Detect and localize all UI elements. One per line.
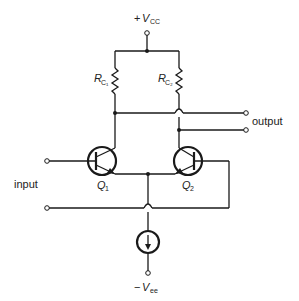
vcc-label: + V CC [134,12,160,25]
input-label: input [14,178,38,190]
q2-subscript: 2 [190,185,194,192]
output-terminal-2[interactable] [244,128,249,133]
vcc-sign: + [134,12,140,24]
vcc-terminal[interactable] [145,31,150,36]
vee-label: − V ee [134,281,158,294]
rc2-subscript: C₂ [165,79,173,86]
wire-crossover-top [175,109,183,113]
vee-subscript: ee [150,287,158,294]
q1-label: Q 1 [97,179,109,192]
resistor-rc2 [176,68,182,94]
vee-terminal[interactable] [146,271,151,276]
input-terminal-1[interactable] [45,159,50,164]
input-terminal-2[interactable] [45,206,50,211]
current-arrow-down-icon [145,244,151,250]
circuit-diagram: + V CC R C₁ R C₂ output Q [0,0,299,301]
output-terminal-1[interactable] [244,111,249,116]
current-source [137,231,159,253]
q1-subscript: 1 [105,185,109,192]
wire-crossover-bottom [144,204,152,208]
q2-label: Q 2 [182,179,194,192]
rc1-subscript: C₁ [101,79,109,86]
resistor-rc1 [112,68,118,94]
rc2-label: R C₂ [158,72,173,86]
vcc-subscript: CC [150,18,160,25]
output-label: output [252,115,283,127]
rc1-label: R C₁ [94,72,109,86]
vee-sign: − [134,281,140,293]
q2-collector-lead [179,148,194,157]
